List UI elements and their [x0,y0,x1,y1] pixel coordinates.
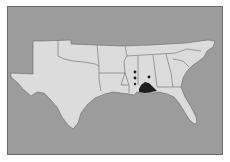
occurrence-dot [134,77,137,80]
range-map [8,7,223,155]
occurrence-dot [134,71,137,74]
occurrence-dot [134,83,136,85]
map-frame [7,6,223,155]
occurrence-dot [148,76,151,79]
land-mass [11,40,215,129]
